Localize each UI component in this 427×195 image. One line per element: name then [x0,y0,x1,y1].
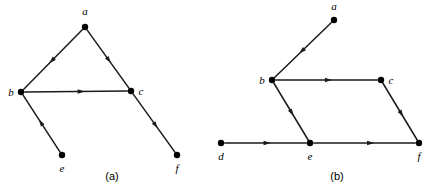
node-label-c: c [139,85,144,97]
node-label-a: a [82,5,88,17]
edge-b-to-c [24,91,128,92]
arrowhead-e-to-b [39,119,45,126]
node-b [18,89,24,95]
arrowhead-d-to-e [264,141,271,145]
panel-caption: (a) [105,170,118,182]
node-c [378,77,384,83]
node-e [307,140,313,146]
node-f [416,140,422,146]
node-label-f: f [175,162,180,174]
node-a [82,24,88,30]
panel-caption: (b) [330,170,343,182]
node-a [331,17,337,23]
figure-container: abcef(a) abcdef(b) [0,0,427,195]
node-label-e: e [60,162,65,174]
node-label-d: d [218,150,224,162]
arrowhead-b-to-c [78,89,85,93]
node-f [174,152,180,158]
arrowhead-b-to-c [325,78,332,82]
graph-figure-svg: abcef(a) abcdef(b) [0,0,427,195]
panel-a: abcef(a) [8,5,180,182]
node-label-c: c [389,74,394,86]
node-label-f: f [417,150,422,162]
node-label-a: a [331,0,337,12]
node-label-b: b [259,74,265,86]
node-label-b: b [8,86,14,98]
node-b [269,77,275,83]
node-d [218,140,224,146]
node-e [59,152,65,158]
panel-b: abcdef(b) [218,0,423,182]
node-c [128,88,134,94]
arrowhead-c-to-f [398,110,404,117]
arrowhead-b-to-e [288,108,294,115]
arrowhead-e-to-f [367,141,374,145]
node-label-e: e [308,150,313,162]
